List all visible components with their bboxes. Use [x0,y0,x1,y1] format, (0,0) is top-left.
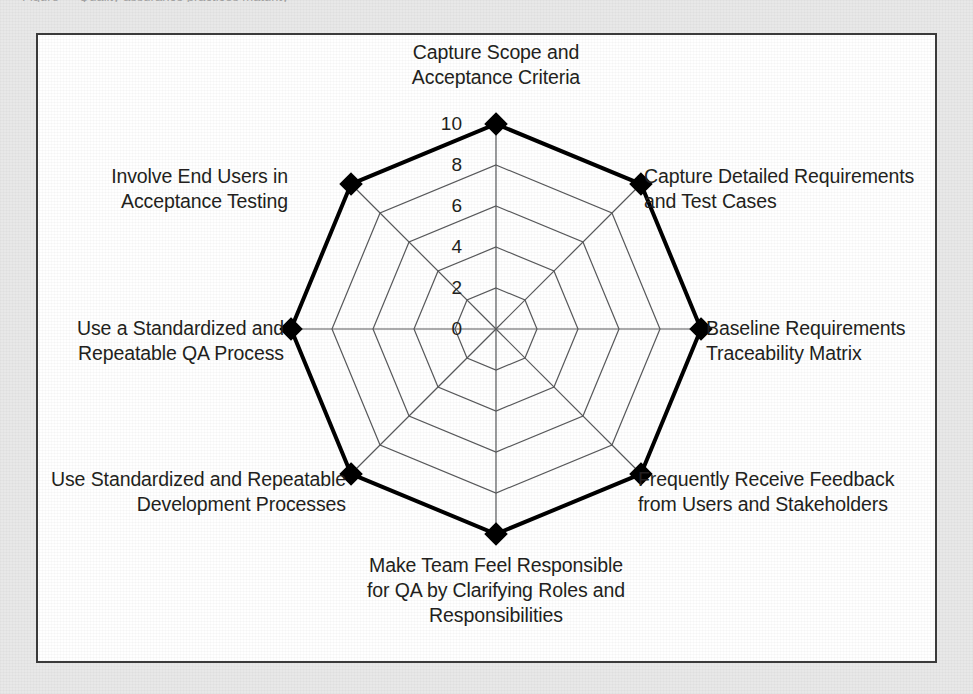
radial-tick-6: 6 [420,196,462,215]
axis-label-involve-end-users: Involve End Users in Acceptance Testing [88,164,288,214]
figure-frame: 1086420 Capture Scope and Acceptance Cri… [36,33,937,663]
axis-label-baseline-rtm: Baseline Requirements Traceability Matri… [706,316,946,366]
axis-label-frequently-receive-feedback: Frequently Receive Feedback from Users a… [638,467,938,517]
radial-tick-4: 4 [420,237,462,256]
axis-label-capture-scope: Capture Scope and Acceptance Criteria [370,40,622,90]
radial-tick-8: 8 [420,155,462,174]
axis-label-capture-detailed-requirements: Capture Detailed Requirements and Test C… [644,164,944,214]
radial-tick-10: 10 [420,114,462,133]
axis-label-use-standardized-development: Use Standardized and Repeatable Developm… [46,467,346,517]
axis-label-use-standardized-qa: Use a Standardized and Repeatable QA Pro… [54,316,284,366]
figure-page: Figure — Quality assurance practices mat… [0,0,973,694]
axis-label-make-team-feel-responsible: Make Team Feel Responsible for QA by Cla… [356,553,636,628]
caption-sliver: Figure — Quality assurance practices mat… [22,0,662,2]
radial-tick-2: 2 [420,278,462,297]
radial-tick-0: 0 [420,319,462,338]
